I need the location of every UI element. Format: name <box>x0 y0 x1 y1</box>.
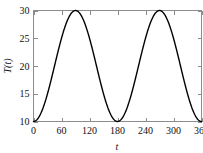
y-axis-title: T(t) <box>2 58 14 74</box>
x-tick-label: 300 <box>166 125 181 136</box>
x-tick-label: 60 <box>57 125 67 136</box>
x-tick-label: 120 <box>82 125 97 136</box>
x-tick-label: 180 <box>110 125 125 136</box>
x-axis-title: t <box>116 141 119 152</box>
y-tick-label: 30 <box>20 5 30 16</box>
x-tick-label: 360 <box>194 125 203 136</box>
chart-figure: 060120180240300360 1015202530 t T(t) <box>0 0 203 153</box>
x-axis-tick-labels: 060120180240300360 <box>31 125 203 136</box>
y-tick-label: 25 <box>20 33 30 44</box>
data-series-curve <box>34 11 202 122</box>
y-axis-tick-marks <box>34 12 38 123</box>
x-tick-label: 240 <box>138 125 153 136</box>
y-axis-tick-marks-right <box>198 12 202 123</box>
plot-frame <box>34 11 202 122</box>
y-tick-label: 10 <box>20 116 30 127</box>
plot-axes <box>34 11 202 122</box>
y-tick-label: 15 <box>20 88 30 99</box>
x-axis-tick-marks-top <box>35 11 203 15</box>
temperature-line-chart: 060120180240300360 1015202530 t T(t) <box>0 0 203 153</box>
y-tick-label: 20 <box>20 61 30 72</box>
y-axis-tick-labels: 1015202530 <box>20 5 30 127</box>
x-tick-label: 0 <box>31 125 36 136</box>
